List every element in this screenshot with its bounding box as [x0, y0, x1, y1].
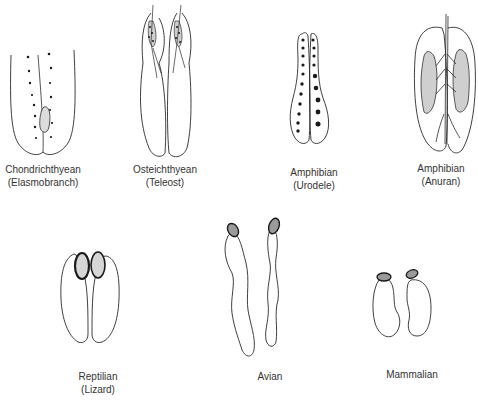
- label-osteichthyean: Osteichthyean (Teleost): [125, 163, 205, 189]
- panel-subtitle: (Teleost): [125, 176, 205, 189]
- panel-subtitle: (Anuran): [406, 175, 476, 188]
- figure-amphibian-urodele: [287, 28, 337, 148]
- label-reptilian: Reptilian (Lizard): [68, 370, 128, 396]
- figure-avian: [222, 218, 292, 363]
- lizard-kidney-drawing: [58, 244, 124, 348]
- panel-title: Mammalian: [382, 368, 442, 381]
- anuran-kidney-drawing: [412, 14, 478, 156]
- teleost-kidney-drawing: [137, 3, 197, 158]
- panel-title: Avian: [250, 370, 290, 383]
- panel-title: Amphibian: [279, 166, 349, 179]
- label-amphibian-urodele: Amphibian (Urodele): [279, 166, 349, 192]
- label-chondrichthyean: Chondrichthyean (Elasmobranch): [0, 163, 86, 189]
- panel-title: Amphibian: [406, 162, 476, 175]
- panel-subtitle: (Lizard): [68, 383, 128, 396]
- mammalian-kidney-drawing: [371, 268, 437, 340]
- figure-amphibian-anuran: [412, 14, 478, 156]
- label-mammalian: Mammalian: [382, 368, 442, 381]
- panel-subtitle: (Elasmobranch): [0, 176, 86, 189]
- elasmobranch-kidney-drawing: [8, 45, 78, 160]
- urodele-kidney-drawing: [287, 28, 337, 148]
- panel-title: Osteichthyean: [125, 163, 205, 176]
- panel-title: Reptilian: [68, 370, 128, 383]
- panel-subtitle: (Urodele): [279, 179, 349, 192]
- figure-mammalian: [371, 268, 437, 340]
- label-avian: Avian: [250, 370, 290, 383]
- figure-osteichthyean: [137, 3, 197, 158]
- figure-reptilian: [58, 244, 124, 348]
- panel-title: Chondrichthyean: [0, 163, 86, 176]
- label-amphibian-anuran: Amphibian (Anuran): [406, 162, 476, 188]
- avian-kidney-drawing: [222, 218, 292, 363]
- figure-chondrichthyean: [8, 45, 78, 160]
